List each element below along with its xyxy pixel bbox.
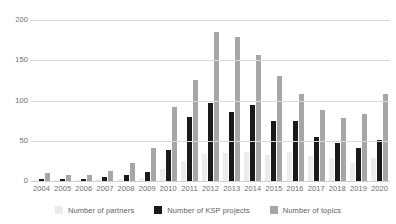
bar-partners-2013 xyxy=(223,153,228,181)
y-axis-tick-label-100: 100 xyxy=(2,97,28,105)
bar-partners-2011 xyxy=(181,161,186,181)
bar-partners-2015 xyxy=(265,155,270,181)
gridline-150 xyxy=(31,60,390,61)
bar-chart: 050100150200 200420052006200720082009201… xyxy=(0,0,396,224)
bar-partners-2010 xyxy=(160,169,165,181)
bar-topics-2020 xyxy=(383,94,388,181)
bar-partners-2012 xyxy=(202,154,207,181)
y-axis-tick-label-150: 150 xyxy=(2,56,28,64)
gridline-50 xyxy=(31,141,390,142)
x-axis-tick-label-2020: 2020 xyxy=(369,183,390,195)
bar-projects-2017 xyxy=(314,137,319,181)
legend-item-topics[interactable]: Number of topics xyxy=(270,206,341,215)
bar-partners-2017 xyxy=(308,156,313,181)
bar-partners-2014 xyxy=(244,152,249,181)
x-axis-tick-label-2017: 2017 xyxy=(306,183,327,195)
bar-topics-2004 xyxy=(45,173,50,181)
bar-topics-2019 xyxy=(362,114,367,181)
x-axis-tick-label-2007: 2007 xyxy=(94,183,115,195)
bar-topics-2018 xyxy=(341,118,346,181)
bar-projects-2016 xyxy=(293,121,298,181)
x-axis: 2004200520062007200820092010201120122013… xyxy=(31,183,390,195)
bar-partners-2020 xyxy=(371,158,376,181)
legend-swatch-projects-icon xyxy=(154,206,162,214)
bar-projects-2020 xyxy=(377,140,382,181)
x-axis-tick-label-2009: 2009 xyxy=(137,183,158,195)
x-axis-tick-label-2010: 2010 xyxy=(158,183,179,195)
x-axis-tick-label-2011: 2011 xyxy=(179,183,200,195)
bar-topics-2010 xyxy=(172,107,177,181)
plot-area xyxy=(31,20,390,181)
bar-partners-2016 xyxy=(287,152,292,181)
bar-partners-2019 xyxy=(350,163,355,182)
legend-swatch-partners-icon xyxy=(55,206,63,214)
legend-swatch-topics-icon xyxy=(270,206,278,214)
bar-topics-2007 xyxy=(108,171,113,181)
bar-topics-2013 xyxy=(235,37,240,181)
bar-topics-2017 xyxy=(320,110,325,181)
bar-projects-2015 xyxy=(271,121,276,181)
y-axis: 050100150200 xyxy=(0,20,28,181)
y-axis-tick-label-0: 0 xyxy=(2,177,28,185)
y-axis-tick-label-200: 200 xyxy=(2,16,28,24)
legend-item-partners[interactable]: Number of partners xyxy=(55,206,134,215)
bar-projects-2010 xyxy=(166,150,171,181)
x-axis-tick-label-2005: 2005 xyxy=(52,183,73,195)
y-axis-tick-label-50: 50 xyxy=(2,137,28,145)
x-axis-tick-label-2006: 2006 xyxy=(73,183,94,195)
x-axis-tick-label-2014: 2014 xyxy=(242,183,263,195)
bar-projects-2012 xyxy=(208,103,213,181)
bar-topics-2008 xyxy=(130,163,135,182)
x-axis-tick-label-2018: 2018 xyxy=(327,183,348,195)
legend-label-partners: Number of partners xyxy=(68,206,134,215)
legend-item-projects[interactable]: Number of KSP projects xyxy=(154,206,250,215)
x-axis-tick-label-2016: 2016 xyxy=(285,183,306,195)
x-axis-tick-label-2015: 2015 xyxy=(263,183,284,195)
bar-topics-2009 xyxy=(151,148,156,181)
bar-projects-2014 xyxy=(250,105,255,181)
bar-partners-2018 xyxy=(329,158,334,181)
x-axis-tick-label-2013: 2013 xyxy=(221,183,242,195)
x-axis-tick-label-2012: 2012 xyxy=(200,183,221,195)
bar-projects-2018 xyxy=(335,143,340,181)
legend-label-projects: Number of KSP projects xyxy=(167,206,250,215)
gridline-0 xyxy=(31,181,390,182)
bar-topics-2015 xyxy=(277,76,282,181)
legend-label-topics: Number of topics xyxy=(283,206,341,215)
bar-topics-2012 xyxy=(214,32,219,181)
x-axis-tick-label-2004: 2004 xyxy=(31,183,52,195)
gridline-200 xyxy=(31,20,390,21)
gridline-100 xyxy=(31,101,390,102)
bar-topics-2011 xyxy=(193,80,198,181)
bar-projects-2011 xyxy=(187,117,192,181)
bar-topics-2014 xyxy=(256,55,261,181)
bar-projects-2019 xyxy=(356,148,361,181)
x-axis-tick-label-2019: 2019 xyxy=(348,183,369,195)
chart-legend: Number of partnersNumber of KSP projects… xyxy=(0,201,396,219)
x-axis-tick-label-2008: 2008 xyxy=(116,183,137,195)
bar-projects-2013 xyxy=(229,112,234,181)
bar-topics-2016 xyxy=(299,94,304,181)
bar-projects-2009 xyxy=(145,172,150,181)
